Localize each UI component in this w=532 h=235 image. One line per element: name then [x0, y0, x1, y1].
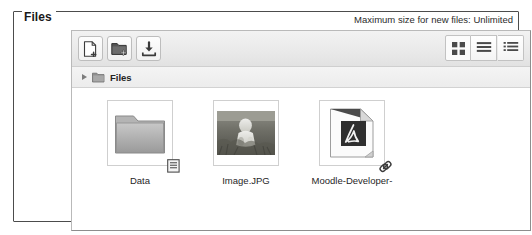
file-item[interactable]: Moodle-Developer-	[302, 100, 402, 187]
add-file-icon	[83, 41, 98, 57]
file-item[interactable]: Image.JPG	[196, 100, 296, 187]
view-icons-button[interactable]	[445, 35, 471, 61]
max-upload-size-note: Maximum size for new files: Unlimited	[350, 14, 513, 25]
add-file-button[interactable]	[78, 36, 103, 61]
list-view-icon	[476, 41, 492, 55]
file-thumbnail	[319, 100, 385, 166]
file-label: Data	[90, 175, 190, 187]
tree-view-icon	[503, 41, 519, 55]
triangle-right-icon	[82, 74, 87, 80]
pdf-icon	[327, 107, 377, 159]
file-label: Image.JPG	[196, 175, 296, 187]
file-thumbnail	[107, 100, 173, 166]
document-badge-icon	[165, 158, 181, 174]
link-badge-icon	[377, 158, 393, 174]
download-icon	[141, 41, 157, 57]
file-grid: Data	[72, 88, 530, 187]
breadcrumb[interactable]: Files	[72, 67, 530, 88]
file-thumbnail	[213, 100, 279, 166]
add-folder-icon	[111, 41, 128, 56]
view-list-button[interactable]	[471, 35, 497, 61]
file-label: Moodle-Developer-	[302, 175, 402, 187]
download-all-button[interactable]	[136, 36, 161, 61]
view-tree-button[interactable]	[498, 35, 524, 61]
folder-icon	[114, 111, 166, 155]
folder-icon	[92, 72, 105, 83]
breadcrumb-label: Files	[110, 72, 132, 83]
file-item[interactable]: Data	[90, 100, 190, 187]
grid-view-icon	[451, 41, 466, 56]
filemanager-fieldset: Files Maximum size for new files: Unlimi…	[13, 11, 519, 222]
filepicker-toolbar	[72, 31, 530, 67]
add-folder-button[interactable]	[107, 36, 132, 61]
photo-thumbnail	[217, 111, 275, 155]
page-title: Files	[22, 10, 56, 24]
filepicker-panel: Files	[71, 30, 531, 231]
